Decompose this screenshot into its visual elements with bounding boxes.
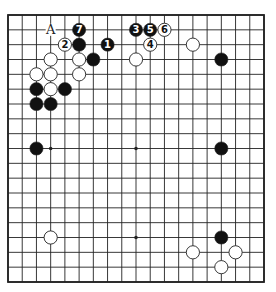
white-stone [73, 68, 86, 81]
white-stone [44, 53, 57, 66]
go-board: A 1234567 [0, 0, 276, 292]
black-stone [73, 38, 86, 51]
star-point [134, 147, 138, 151]
black-stone [30, 83, 43, 96]
black-stone-5: 5 [144, 23, 157, 36]
black-stone-circle [30, 142, 43, 155]
white-stone [186, 38, 199, 51]
black-stone [215, 231, 228, 244]
black-stone [30, 142, 43, 155]
white-stone [44, 83, 57, 96]
black-stone-circle [30, 97, 43, 110]
star-point [134, 236, 138, 240]
black-stone-circle [30, 83, 43, 96]
white-stone-circle [30, 68, 43, 81]
black-stone-circle [215, 53, 228, 66]
white-stone-circle [73, 53, 86, 66]
black-stone [30, 97, 43, 110]
move-number: 7 [76, 24, 83, 35]
white-stone-6: 6 [158, 23, 171, 36]
black-stone [44, 97, 57, 110]
black-stone-circle [73, 38, 86, 51]
black-stone [87, 53, 100, 66]
black-stone-circle [215, 142, 228, 155]
white-stone [44, 68, 57, 81]
move-number: 6 [161, 24, 168, 35]
white-stone-circle [44, 68, 57, 81]
move-number: 1 [104, 39, 111, 50]
white-stone [30, 68, 43, 81]
white-stone-4: 4 [144, 38, 157, 51]
move-number: 2 [61, 39, 68, 50]
white-stone [129, 53, 142, 66]
white-stone-circle [186, 38, 199, 51]
white-stone [44, 231, 57, 244]
white-stone-circle [44, 53, 57, 66]
white-stone-circle [73, 68, 86, 81]
black-stone-circle [87, 53, 100, 66]
white-stone-circle [186, 246, 199, 259]
white-stone [186, 246, 199, 259]
white-stone-circle [215, 261, 228, 274]
white-stone-circle [129, 53, 142, 66]
black-stone [58, 83, 71, 96]
black-stone-3: 3 [129, 23, 142, 36]
black-stone-circle [215, 231, 228, 244]
black-stone [215, 53, 228, 66]
white-stone [229, 246, 242, 259]
black-stone-circle [58, 83, 71, 96]
mark-label-a: A [45, 22, 56, 37]
move-number: 5 [147, 24, 154, 35]
black-stone [215, 142, 228, 155]
board-marks: A [45, 22, 56, 37]
go-board-diagram: A 1234567 [0, 0, 276, 292]
white-stone-2: 2 [58, 38, 71, 51]
white-stone [73, 53, 86, 66]
black-stone-1: 1 [101, 38, 114, 51]
black-stone-7: 7 [73, 23, 86, 36]
white-stone-circle [229, 246, 242, 259]
white-stone [215, 261, 228, 274]
move-number: 3 [133, 24, 140, 35]
black-stone-circle [44, 97, 57, 110]
white-stone-circle [44, 83, 57, 96]
move-number: 4 [147, 39, 154, 50]
white-stone-circle [44, 231, 57, 244]
star-point [49, 147, 53, 151]
